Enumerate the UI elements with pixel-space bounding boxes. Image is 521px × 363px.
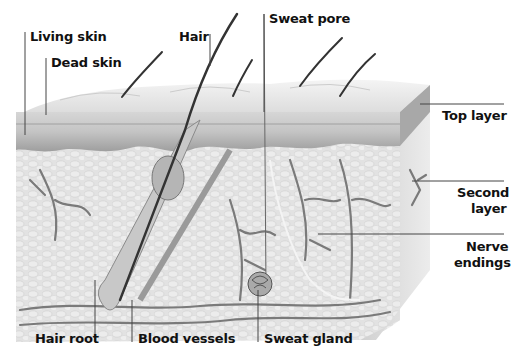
label-nerve-endings-line2: endings [454,255,511,270]
label-sweat-gland: Sweat gland [264,331,353,346]
skin-surface [24,80,430,112]
label-sweat-pore: Sweat pore [269,11,350,26]
label-second-layer-line1: Second [457,185,509,200]
label-blood-vessels: Blood vessels [138,331,235,346]
label-dead-skin: Dead skin [51,55,122,70]
label-living-skin: Living skin [30,29,107,44]
label-top-layer: Top layer [442,108,507,123]
label-second-layer-line2: layer [471,201,507,216]
label-hair-root: Hair root [35,331,99,346]
label-hair: Hair [179,29,209,44]
label-nerve-endings-line1: Nerve [466,239,508,254]
